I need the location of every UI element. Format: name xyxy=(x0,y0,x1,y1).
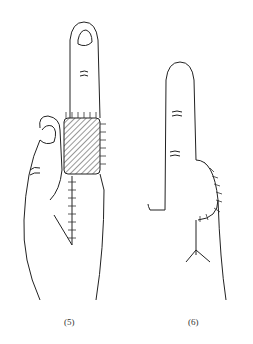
panel-5-label: (5) xyxy=(64,317,75,327)
panel-5-hand xyxy=(24,22,104,300)
panel-6-label: (6) xyxy=(188,317,199,327)
illustration xyxy=(0,0,253,344)
panel-6-hand xyxy=(148,62,226,300)
